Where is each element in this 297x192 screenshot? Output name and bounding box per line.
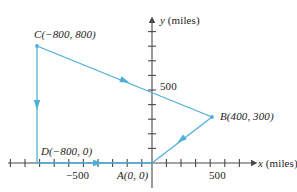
axis-label-x-units: (miles) <box>263 157 297 169</box>
axis-label-y: y (miles) <box>160 15 200 26</box>
x-tick-label-negative-500: −500 <box>66 170 89 181</box>
x-tick-label-positive-500: 500 <box>209 170 226 181</box>
point-label-b: B(400, 300) <box>220 111 274 122</box>
point-label-c-text: C(−800, 800) <box>34 28 96 40</box>
axis-label-x: x (miles) <box>258 158 297 169</box>
point-label-b-text: B(400, 300) <box>220 110 274 122</box>
y-tick-label-500: 500 <box>160 81 177 92</box>
point-label-d-text: D(−800, 0) <box>41 145 92 157</box>
point-marker-b <box>210 115 214 119</box>
arrow-c-to-b <box>119 76 131 85</box>
axis-label-y-units: (miles) <box>165 14 200 26</box>
arrow-c-to-d <box>34 100 40 110</box>
coordinate-plane-figure: C(−800, 800) D(−800, 0) B(400, 300) A(0,… <box>0 0 297 192</box>
point-label-c: C(−800, 800) <box>34 29 96 40</box>
point-label-d: D(−800, 0) <box>41 146 92 157</box>
point-label-a-text: A(0, 0) <box>117 169 148 181</box>
point-label-a: A(0, 0) <box>117 170 148 181</box>
point-marker-c <box>35 44 39 48</box>
